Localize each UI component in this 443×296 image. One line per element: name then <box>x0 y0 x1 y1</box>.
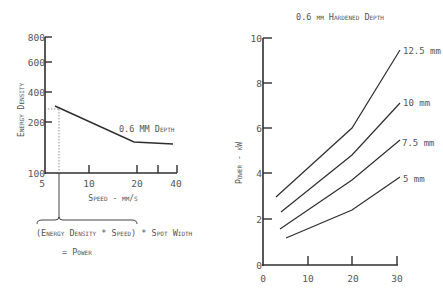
right-chart: 0.6 mm Hardened Depth 10 8 6 4 2 0 0 <box>235 12 441 284</box>
right-y-ticks <box>263 38 272 219</box>
y-tick-400: 400 <box>28 87 45 98</box>
x-tick-30: 30 <box>391 273 403 284</box>
label-5mm: 5 mm <box>403 174 425 184</box>
left-x-tick-labels: 5 10 20 40 <box>39 178 182 189</box>
x-tick-40: 40 <box>170 178 182 189</box>
y-tick-2: 2 <box>256 214 262 225</box>
left-y-tick-labels: 800 600 400 200 100 <box>28 32 45 179</box>
y-tick-600: 600 <box>28 57 45 68</box>
figure: 800 600 400 200 100 5 10 20 40 Energy De… <box>0 0 443 296</box>
y-tick-10: 10 <box>251 33 263 44</box>
y-tick-4: 4 <box>256 168 262 179</box>
formula-line-2: = Power <box>62 247 92 257</box>
right-x-tick-labels: 0 10 20 30 <box>260 273 403 284</box>
label-10mm: 10 mm <box>403 98 430 108</box>
x-tick-20: 20 <box>131 178 143 189</box>
y-tick-800: 800 <box>28 32 45 43</box>
right-y-axis-label: Power - kW <box>235 142 244 184</box>
series-10mm <box>281 103 400 212</box>
x-tick-5: 5 <box>39 178 45 189</box>
left-y-axis-label: Energy Density <box>17 83 26 138</box>
label-12-5mm: 12.5 mm <box>403 46 441 56</box>
left-series-label: 0.6 MM Depth <box>119 124 175 134</box>
y-tick-200: 200 <box>28 117 45 128</box>
x-tick-20: 20 <box>347 273 359 284</box>
left-chart: 800 600 400 200 100 5 10 20 40 Energy De… <box>17 32 193 257</box>
x-tick-10: 10 <box>83 178 95 189</box>
right-series <box>276 50 400 238</box>
brace <box>37 217 137 224</box>
right-chart-title: 0.6 mm Hardened Depth <box>296 12 384 22</box>
x-tick-10: 10 <box>302 273 314 284</box>
right-y-tick-labels: 10 8 6 4 2 0 <box>251 33 263 271</box>
y-tick-0: 0 <box>256 260 262 271</box>
y-tick-8: 8 <box>256 78 262 89</box>
right-series-labels: 12.5 mm 10 mm 7.5 mm 5 mm <box>402 46 441 184</box>
left-x-axis-label: Speed - mm/s <box>88 194 138 203</box>
label-7-5mm: 7.5 mm <box>402 138 435 148</box>
right-x-ticks <box>308 256 397 265</box>
y-tick-6: 6 <box>256 123 262 134</box>
left-x-ticks <box>89 165 177 173</box>
x-tick-0: 0 <box>260 273 266 284</box>
formula-line-1: (Energy Density * Speed) * Spot Width <box>36 228 193 238</box>
